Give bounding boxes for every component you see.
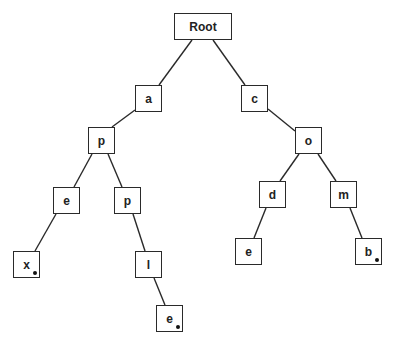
edge-ap-ape	[74, 154, 92, 187]
edge-cod-code	[254, 208, 266, 238]
node-label: p	[98, 134, 105, 148]
trie-node-apple: e	[156, 305, 183, 332]
node-label: Root	[189, 20, 216, 34]
node-label: e	[245, 245, 252, 259]
edge-ap-app	[108, 154, 122, 187]
edge-root-a	[159, 40, 192, 85]
trie-node-ape: e	[53, 187, 80, 214]
trie-node-c: c	[241, 85, 268, 112]
edge-com-comb	[350, 208, 362, 238]
node-label: l	[147, 258, 150, 272]
edge-a-ap	[112, 110, 135, 127]
edge-root-c	[213, 40, 245, 85]
edge-co-cod	[280, 154, 299, 181]
trie-node-co: o	[295, 127, 322, 154]
node-label: p	[124, 194, 131, 208]
node-label: x	[23, 258, 30, 272]
node-label: e	[166, 312, 173, 326]
node-label: m	[338, 188, 349, 202]
end-of-word-dot-icon	[33, 271, 37, 275]
trie-node-app: p	[114, 187, 141, 214]
trie-node-root: Root	[174, 13, 232, 40]
trie-node-a: a	[135, 85, 162, 112]
trie-node-cod: d	[259, 181, 286, 208]
edge-co-com	[318, 154, 336, 181]
edge-app-appl	[133, 214, 145, 251]
edges-layer	[0, 0, 394, 348]
trie-node-apex: x	[13, 251, 40, 278]
edge-ape-apex	[35, 214, 56, 251]
trie-node-com: m	[330, 181, 357, 208]
trie-node-appl: l	[135, 251, 162, 278]
node-label: c	[251, 92, 258, 106]
edge-c-co	[268, 109, 295, 131]
end-of-word-dot-icon	[375, 258, 379, 262]
node-label: a	[145, 92, 152, 106]
trie-node-ap: p	[88, 127, 115, 154]
trie-node-comb: b	[355, 238, 382, 265]
end-of-word-dot-icon	[176, 325, 180, 329]
node-label: o	[305, 134, 312, 148]
edge-appl-apple	[154, 278, 165, 305]
node-label: e	[63, 194, 70, 208]
trie-node-code: e	[235, 238, 262, 265]
node-label: b	[365, 245, 372, 259]
node-label: d	[269, 188, 276, 202]
